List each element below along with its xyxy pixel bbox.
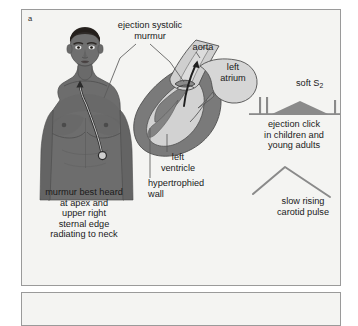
label-soft-s2-text: soft S (296, 78, 320, 88)
label-aorta: aorta (177, 42, 229, 53)
label-carotid-pulse: slow rising carotid pulse (258, 196, 348, 217)
panel-letter: a (28, 14, 32, 23)
panel-b (21, 292, 341, 326)
label-murmur-best-heard: murmur best heard at apex and upper righ… (25, 187, 143, 240)
label-ejection-click: ejection click in children and young adu… (235, 119, 353, 151)
label-soft-s2-subscript: 2 (320, 82, 324, 89)
label-hypertrophied-wall: hypertrophied wall (148, 178, 224, 199)
label-left-ventricle: left ventricle (150, 152, 206, 173)
label-left-atrium: left atrium (206, 62, 260, 83)
label-soft-s2: soft S2 (296, 78, 352, 92)
label-ejection-systolic-murmur: ejection systolic murmur (86, 20, 214, 41)
